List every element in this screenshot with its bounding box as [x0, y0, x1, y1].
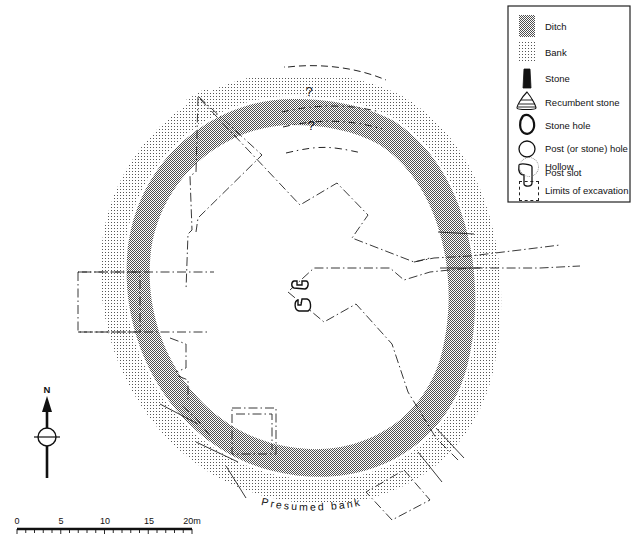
- legend-overlay: [0, 0, 636, 549]
- site-plan-figure: ? ?: [0, 0, 636, 549]
